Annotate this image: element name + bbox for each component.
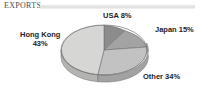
pie-label-hongkong-value: 43% (20, 40, 60, 49)
pie-label-japan: Japan 15% (155, 26, 194, 35)
pie-label-other: Other 34% (143, 73, 180, 82)
pie-label-usa: USA 8% (103, 12, 131, 21)
header-divider (40, 4, 195, 9)
exports-pie-chart-figure: EXPORTS (0, 0, 215, 95)
page-title: EXPORTS (4, 1, 41, 10)
pie-label-hongkong: Hong Kong 43% (20, 31, 60, 48)
pie-chart-graphic (0, 10, 215, 95)
pie-chart: USA 8% Japan 15% Hong Kong 43% Other 34% (0, 10, 215, 95)
